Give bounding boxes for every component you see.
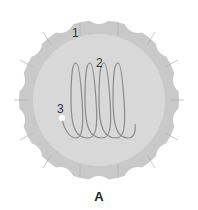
label-3: 3 xyxy=(57,103,64,115)
label-2: 2 xyxy=(96,57,103,69)
figure-caption: A xyxy=(0,189,198,204)
scalloped-disc-diagram xyxy=(0,0,198,210)
label-1: 1 xyxy=(72,27,79,39)
